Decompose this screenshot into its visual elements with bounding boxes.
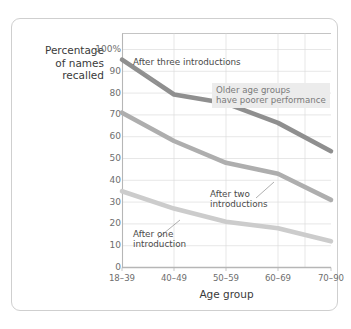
x-tick-60-69: 60–69 — [256, 274, 300, 283]
x-tick-70-90: 70–90 — [309, 274, 351, 283]
x-tick-18-39: 18–39 — [100, 274, 144, 283]
x-axis-tick-labels: 18–39 40–49 50–59 60–69 70–90 — [0, 0, 351, 329]
x-tick-50-59: 50–59 — [204, 274, 248, 283]
x-tick-40-49: 40–49 — [152, 274, 196, 283]
x-axis-title: Age group — [122, 288, 331, 300]
